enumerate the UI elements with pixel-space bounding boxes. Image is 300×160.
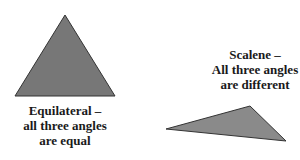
equilateral-label-line-2: all three angles	[0, 118, 130, 133]
scalene-label-line-1: Scalene –	[195, 47, 300, 62]
equilateral-label: Equilateral – all three angles are equal	[0, 103, 130, 148]
scalene-label-line-2: All three angles	[195, 62, 300, 77]
scalene-triangle	[166, 106, 286, 141]
scalene-label: Scalene – All three angles are different	[195, 47, 300, 92]
equilateral-label-line-3: are equal	[0, 133, 130, 148]
equilateral-triangle	[15, 15, 115, 96]
scalene-label-line-3: are different	[195, 77, 300, 92]
equilateral-label-line-1: Equilateral –	[0, 103, 130, 118]
